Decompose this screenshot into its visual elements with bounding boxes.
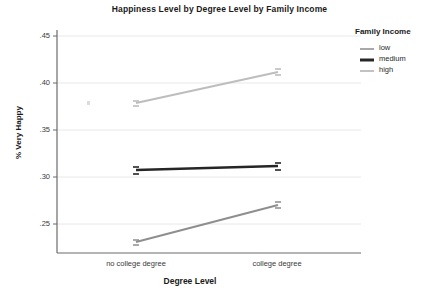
series-medium bbox=[133, 163, 281, 174]
legend-label-medium: medium bbox=[379, 54, 406, 63]
series-high-line bbox=[136, 72, 278, 103]
legend-label-low: low bbox=[379, 43, 390, 52]
chart-container: Happiness Level by Degree Level by Famil… bbox=[0, 0, 439, 297]
legend-swatch-medium bbox=[360, 58, 374, 63]
series-high bbox=[133, 69, 281, 106]
legend-swatch-low bbox=[360, 47, 374, 51]
legend-label-high: high bbox=[379, 65, 393, 74]
legend-swatch-high bbox=[360, 69, 374, 73]
series-medium-line bbox=[136, 166, 278, 170]
plot-area bbox=[0, 0, 439, 297]
plot-artifact-mark bbox=[87, 101, 90, 105]
legend-title: Family Income bbox=[355, 27, 411, 36]
